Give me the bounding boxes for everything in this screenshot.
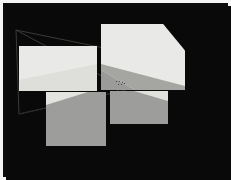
crop-panel-bottom-left[interactable] xyxy=(46,92,106,146)
crop-panel-bottom-right[interactable] xyxy=(110,91,168,124)
screenshot-viewport xyxy=(0,0,231,180)
scene-background-plate xyxy=(6,6,231,180)
wedge-bottom-left-light xyxy=(46,92,106,146)
wedge-bottom-right-light xyxy=(110,91,168,124)
scene-frame xyxy=(0,0,231,180)
wedge-mid-left xyxy=(19,46,97,91)
crop-panel-mid-left[interactable] xyxy=(19,46,97,91)
